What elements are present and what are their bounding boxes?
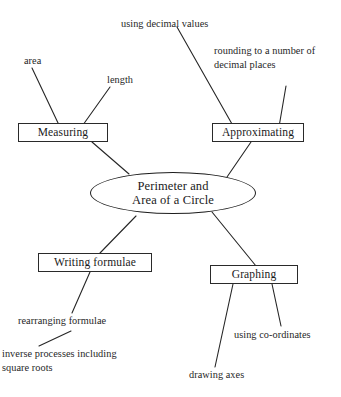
leaf-rounding-decimal-places: rounding to a number of decimal places — [214, 44, 315, 71]
edge-rounding-to-approximating — [280, 86, 287, 124]
node-center-label-line2: Area of a Circle — [132, 193, 214, 207]
leaf-length: length — [107, 73, 133, 87]
node-measuring[interactable]: Measuring — [18, 123, 108, 142]
edge-rearranging-to-inverse-processes — [39, 331, 71, 346]
leaf-inverse-processes: inverse processes including square roots — [2, 347, 117, 374]
node-center-label-line1: Perimeter and — [137, 179, 208, 193]
node-graphing-label: Graphing — [232, 268, 277, 280]
edge-writing-formulae-to-rearranging — [72, 272, 90, 313]
edge-graphing-to-using-co-ordinates — [272, 284, 281, 326]
edge-using-decimal-values-to-approximating — [177, 27, 232, 124]
node-graphing[interactable]: Graphing — [210, 265, 298, 284]
node-writing-formulae[interactable]: Writing formulae — [38, 253, 152, 272]
node-approximating[interactable]: Approximating — [212, 123, 304, 142]
concept-map-canvas: Measuring Approximating Perimeter and Ar… — [0, 0, 341, 397]
leaf-using-co-ordinates: using co-ordinates — [234, 328, 311, 342]
leaf-using-decimal-values: using decimal values — [121, 17, 208, 31]
edge-approximating-to-center — [227, 142, 251, 177]
node-writing-formulae-label: Writing formulae — [54, 256, 136, 268]
edge-length-to-measuring — [84, 87, 110, 124]
edge-center-to-graphing — [212, 212, 256, 266]
node-approximating-label: Approximating — [222, 126, 294, 138]
leaf-rearranging-formulae: rearranging formulae — [18, 314, 106, 328]
leaf-drawing-axes: drawing axes — [189, 368, 244, 382]
edge-center-to-writing-formulae — [100, 216, 136, 253]
leaf-area: area — [24, 54, 41, 68]
node-center[interactable]: Perimeter and Area of a Circle — [90, 172, 256, 214]
edge-measuring-to-center — [92, 142, 129, 174]
edge-graphing-to-drawing-axes — [215, 284, 233, 367]
node-measuring-label: Measuring — [38, 126, 89, 138]
edge-area-to-measuring — [32, 68, 59, 124]
